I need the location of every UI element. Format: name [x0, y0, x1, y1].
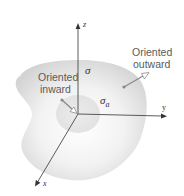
outward-annotation: Oriented outward	[132, 46, 175, 70]
outward-arrowhead-icon	[142, 73, 150, 80]
y-axis-label: y	[162, 103, 166, 112]
z-axis-label: z	[82, 20, 87, 29]
x-axis-label: x	[42, 179, 47, 188]
z-axis-arrowhead-icon	[76, 23, 81, 29]
surface-sigma-label: σ	[85, 64, 91, 76]
y-axis-arrowhead-icon	[161, 114, 167, 119]
surface-orientation-diagram: z y x σ σa Oriented outward Oriented inw…	[0, 0, 184, 196]
